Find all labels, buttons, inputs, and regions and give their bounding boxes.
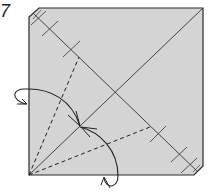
- origami-diagram: [0, 0, 213, 192]
